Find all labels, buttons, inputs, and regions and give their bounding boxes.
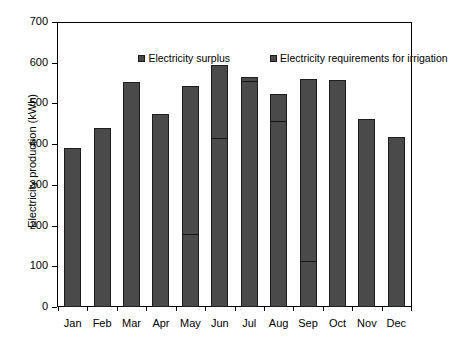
- x-tick-label: Jun: [211, 317, 229, 329]
- bar-group: [64, 23, 81, 307]
- x-tick-label: Aug: [269, 317, 289, 329]
- x-tick-mark: [117, 307, 118, 311]
- bar-segment-surplus: [94, 128, 111, 307]
- bar-group: [388, 23, 405, 307]
- bar-segment-irrigation: [242, 81, 257, 306]
- y-tick-label: 200: [30, 219, 48, 231]
- y-tick-mark: [52, 307, 57, 308]
- y-tick-label: 500: [30, 96, 48, 108]
- bar-segment-surplus: [358, 119, 375, 307]
- bar-segment-surplus: [152, 114, 169, 307]
- x-tick-mark: [87, 307, 88, 311]
- x-axis-ticks: JanFebMarAprMayJunJulAugSepOctNovDec: [58, 307, 411, 343]
- bar-group: [211, 23, 228, 307]
- bar-segment-irrigation: [271, 121, 286, 306]
- bar-group: [329, 23, 346, 307]
- y-tick-label: 300: [30, 178, 48, 190]
- bar-segment-surplus: [182, 86, 199, 307]
- bar-segment-surplus: [64, 148, 81, 307]
- bar-segment-surplus: [211, 65, 228, 307]
- x-tick-label: Jan: [64, 317, 82, 329]
- bar-segment-surplus: [123, 82, 140, 307]
- bar-group: [182, 23, 199, 307]
- y-tick-label: 0: [42, 300, 48, 312]
- bars-container: [58, 23, 411, 307]
- x-tick-label: May: [180, 317, 201, 329]
- x-tick-mark: [293, 307, 294, 311]
- bar-segment-surplus: [300, 79, 317, 307]
- x-tick-mark: [323, 307, 324, 311]
- x-tick-mark: [58, 307, 59, 311]
- x-tick-mark: [352, 307, 353, 311]
- bar-segment-irrigation: [183, 234, 198, 306]
- x-tick-label: Oct: [329, 317, 346, 329]
- bar-group: [358, 23, 375, 307]
- x-tick-label: Sep: [298, 317, 318, 329]
- x-tick-label: Apr: [152, 317, 169, 329]
- x-tick-mark: [382, 307, 383, 311]
- bar-group: [152, 23, 169, 307]
- x-tick-label: Nov: [357, 317, 377, 329]
- bar-group: [300, 23, 317, 307]
- y-tick-label: 700: [30, 15, 48, 27]
- bar-segment-surplus: [241, 77, 258, 307]
- x-tick-label: Jul: [242, 317, 256, 329]
- bar-segment-surplus: [270, 94, 287, 307]
- x-tick-mark: [264, 307, 265, 311]
- x-tick-label: Mar: [122, 317, 141, 329]
- y-tick-label: 100: [30, 259, 48, 271]
- y-axis-title: Electricity production (kWh): [26, 31, 38, 291]
- bar-segment-irrigation: [301, 261, 316, 306]
- x-tick-mark: [411, 307, 412, 311]
- bar-segment-surplus: [329, 80, 346, 307]
- bar-segment-irrigation: [212, 138, 227, 306]
- x-tick-mark: [146, 307, 147, 311]
- x-tick-mark: [176, 307, 177, 311]
- y-tick-label: 600: [30, 56, 48, 68]
- x-tick-label: Dec: [387, 317, 407, 329]
- bar-group: [270, 23, 287, 307]
- bar-group: [94, 23, 111, 307]
- x-tick-mark: [205, 307, 206, 311]
- x-tick-label: Feb: [93, 317, 112, 329]
- x-tick-mark: [235, 307, 236, 311]
- bar-group: [123, 23, 140, 307]
- bar-group: [241, 23, 258, 307]
- y-tick-label: 400: [30, 137, 48, 149]
- bar-segment-surplus: [388, 137, 405, 307]
